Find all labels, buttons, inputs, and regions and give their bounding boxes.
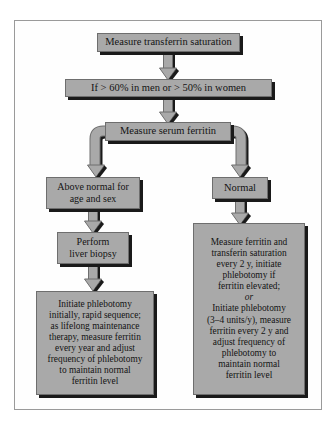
node-label-or: or: [194, 292, 304, 303]
node-label-part2: Initiate phlebotomy (3–4 units/y), measu…: [194, 303, 304, 381]
figure-frame: Measure transferrin saturation If > 60% …: [14, 20, 322, 410]
node-label: If > 60% in men or > 50% in women: [66, 82, 271, 94]
node-label: Perform liver biopsy: [58, 236, 128, 260]
node-above-normal: Above normal for age and sex: [46, 177, 140, 209]
node-label: Above normal for age and sex: [47, 181, 139, 205]
node-label: Normal: [213, 182, 267, 194]
node-phlebotomy-plan: Initiate phlebotomy initially, rapid seq…: [36, 291, 154, 395]
node-monitor-plan: Measure ferritin and transferin saturati…: [193, 223, 305, 395]
node-label: Initiate phlebotomy initially, rapid seq…: [37, 299, 153, 388]
node-label-part1: Measure ferritin and transferin saturati…: [194, 237, 304, 292]
node-label: Measure transferrin saturation: [98, 36, 239, 48]
node-measure-serum-ferritin: Measure serum ferritin: [105, 122, 231, 141]
node-normal: Normal: [212, 177, 268, 199]
node-label: Measure serum ferritin: [106, 125, 230, 137]
node-saturation-threshold: If > 60% in men or > 50% in women: [65, 79, 272, 97]
node-measure-transferrin-saturation: Measure transferrin saturation: [97, 33, 240, 52]
node-perform-liver-biopsy: Perform liver biopsy: [57, 232, 129, 264]
figure-canvas: Measure transferrin saturation If > 60% …: [0, 0, 335, 422]
